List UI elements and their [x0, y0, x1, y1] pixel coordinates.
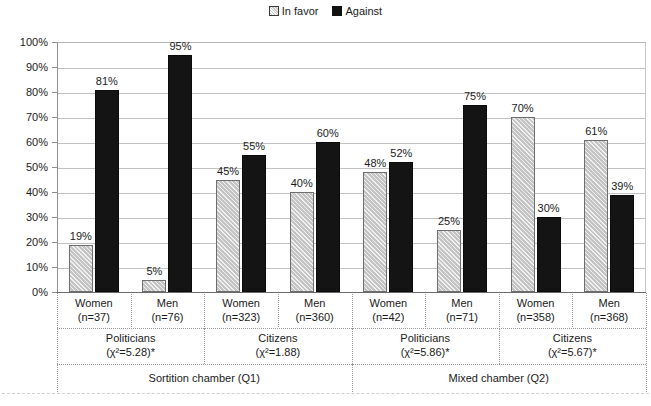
legend-label-in-favor: In favor — [282, 5, 319, 17]
chamber-label: Mixed chamber (Q2) — [352, 364, 647, 392]
group-separator — [499, 328, 500, 364]
category-sex: Women — [369, 296, 407, 310]
bar-in-favor — [290, 192, 314, 292]
category-separator — [572, 294, 573, 327]
category-n: (n=42) — [372, 310, 404, 324]
group-label: Citizens(χ²=5.67)* — [499, 328, 646, 364]
bar-against — [168, 55, 192, 293]
axis-row-divider — [57, 364, 646, 365]
chamber-axis-row: Sortition chamber (Q1)Mixed chamber (Q2) — [57, 364, 646, 392]
group-separator — [352, 328, 353, 364]
gridline — [58, 68, 645, 69]
group-axis-row: Politicians(χ²=5.28)*Citizens(χ²=1.88)Po… — [57, 328, 646, 364]
bar-against — [242, 155, 266, 293]
bar-value-label-against: 75% — [455, 91, 495, 102]
category-n: (n=76) — [151, 310, 183, 324]
bar-value-label-against: 55% — [234, 141, 274, 152]
bar-in-favor — [216, 180, 240, 293]
bar-in-favor — [69, 245, 93, 293]
y-axis-tick-label: 40% — [0, 187, 48, 197]
bar-value-label-against: 60% — [308, 128, 348, 139]
category-label: Men(n=360) — [278, 293, 352, 328]
y-axis-tick-label: 100% — [0, 37, 48, 47]
group-name: Citizens — [258, 331, 297, 345]
legend-item-in-favor: In favor — [269, 5, 319, 17]
group-chi-square: (χ²=5.86)* — [401, 345, 450, 359]
group-label: Politicians(χ²=5.28)* — [57, 328, 204, 364]
bar-value-label-against: 39% — [602, 181, 642, 192]
y-axis-tick-label: 0% — [0, 287, 48, 297]
y-axis-tick-label: 10% — [0, 262, 48, 272]
y-axis-tick-label: 50% — [0, 162, 48, 172]
category-separator — [204, 294, 205, 327]
category-separator — [131, 294, 132, 327]
category-separator — [499, 294, 500, 327]
category-separator — [278, 294, 279, 327]
bar-value-label-against: 95% — [160, 41, 200, 52]
category-label: Men(n=368) — [572, 293, 646, 328]
category-label: Men(n=71) — [425, 293, 499, 328]
category-label: Women(n=323) — [204, 293, 278, 328]
axis-block-edge — [57, 293, 58, 392]
category-label: Women(n=42) — [352, 293, 426, 328]
category-separator — [352, 294, 353, 327]
group-chi-square: (χ²=5.28)* — [106, 345, 155, 359]
bar-value-label-against: 30% — [529, 203, 569, 214]
bar-value-label-against: 52% — [381, 148, 421, 159]
category-sex: Men — [598, 296, 619, 310]
category-sex: Men — [304, 296, 325, 310]
y-axis-tick-label: 80% — [0, 87, 48, 97]
group-separator — [204, 328, 205, 364]
legend-swatch-in-favor-icon — [269, 6, 279, 16]
category-sex: Women — [517, 296, 555, 310]
bar-against — [537, 217, 561, 292]
bar-in-favor — [142, 280, 166, 293]
bar-against — [463, 105, 487, 293]
y-axis-tick-label: 70% — [0, 112, 48, 122]
category-axis-row: Women(n=37)Men(n=76)Women(n=323)Men(n=36… — [57, 293, 646, 328]
category-n: (n=358) — [516, 310, 554, 324]
legend-label-against: Against — [345, 5, 382, 17]
category-sex: Women — [75, 296, 113, 310]
group-chi-square: (χ²=1.88) — [256, 345, 301, 359]
bar-value-label-in-favor: 61% — [576, 126, 616, 137]
y-axis-tick-label: 20% — [0, 237, 48, 247]
y-axis-tick-label: 60% — [0, 137, 48, 147]
y-axis-tick-label: 90% — [0, 62, 48, 72]
category-label: Men(n=76) — [131, 293, 205, 328]
bar-against — [95, 90, 119, 293]
bar-against — [316, 142, 340, 292]
chart-legend: In favor Against — [0, 3, 651, 19]
group-label: Politicians(χ²=5.86)* — [352, 328, 499, 364]
category-n: (n=37) — [78, 310, 110, 324]
group-name: Politicians — [400, 331, 450, 345]
axis-block-edge — [646, 293, 647, 392]
legend-swatch-against-icon — [332, 6, 342, 16]
category-sex: Men — [157, 296, 178, 310]
category-label: Women(n=358) — [499, 293, 573, 328]
bottom-divider — [2, 393, 649, 394]
gridline — [58, 118, 645, 119]
category-sex: Men — [451, 296, 472, 310]
category-n: (n=360) — [296, 310, 334, 324]
group-chi-square: (χ²=5.67)* — [548, 345, 597, 359]
bar-value-label-in-favor: 70% — [503, 103, 543, 114]
group-name: Citizens — [553, 331, 592, 345]
axis-row-divider — [57, 328, 646, 329]
gridline — [58, 93, 645, 94]
category-sex: Women — [222, 296, 260, 310]
bar-in-favor — [437, 230, 461, 293]
gridline — [58, 168, 645, 169]
bar-against — [389, 162, 413, 292]
gridline — [58, 143, 645, 144]
category-n: (n=323) — [222, 310, 260, 324]
gridline — [58, 193, 645, 194]
chamber-separator — [352, 364, 353, 392]
category-n: (n=368) — [590, 310, 628, 324]
chamber-label: Sortition chamber (Q1) — [57, 364, 352, 392]
bar-value-label-against: 81% — [87, 76, 127, 87]
y-axis-tick-label: 30% — [0, 212, 48, 222]
legend-item-against: Against — [332, 5, 382, 17]
bar-in-favor — [363, 172, 387, 292]
category-separator — [425, 294, 426, 327]
